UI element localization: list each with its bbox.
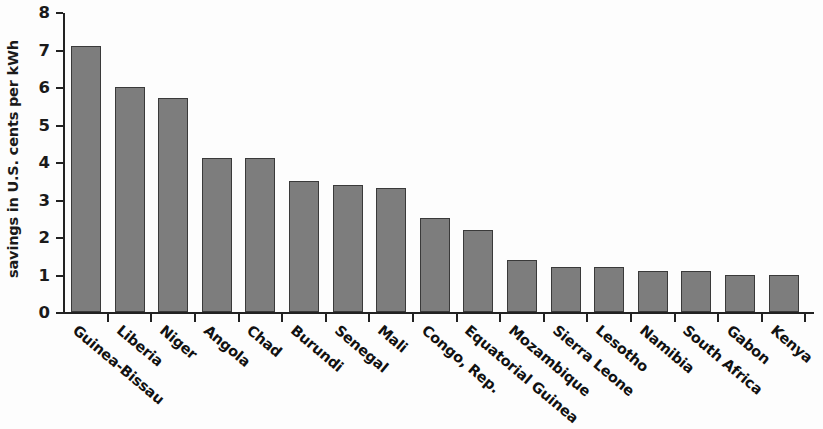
x-axis-tick xyxy=(325,314,327,322)
x-axis-tick xyxy=(107,314,109,322)
bar xyxy=(551,267,581,312)
y-axis-tick: 4 xyxy=(56,162,63,164)
y-axis-tick: 8 xyxy=(56,12,63,14)
y-axis-tick: 0 xyxy=(56,312,63,314)
bar xyxy=(769,275,799,313)
x-axis-tick xyxy=(412,314,414,322)
chart-page: savings in U.S. cents per kWh 012345678 … xyxy=(0,0,823,429)
x-axis-tick xyxy=(543,314,545,322)
x-axis-label: Kenya xyxy=(767,322,815,366)
y-axis-tick: 2 xyxy=(56,237,63,239)
bar xyxy=(507,260,537,313)
bar xyxy=(333,185,363,313)
bar xyxy=(376,188,406,312)
bar xyxy=(725,275,755,313)
x-axis-line xyxy=(63,312,814,314)
x-axis-labels: Guinea-BissauLiberiaNigerAngolaChadBurun… xyxy=(63,322,823,429)
bar xyxy=(71,46,101,312)
y-axis-tick-label: 7 xyxy=(39,42,50,59)
x-axis-tick xyxy=(150,314,152,322)
bar xyxy=(245,158,275,312)
y-axis-tick-label: 5 xyxy=(39,117,50,134)
x-axis-tick xyxy=(804,314,806,322)
y-axis-tick-label: 8 xyxy=(39,5,50,22)
x-axis-tick xyxy=(238,314,240,322)
bar xyxy=(638,271,668,312)
x-axis-tick xyxy=(674,314,676,322)
y-axis-line xyxy=(63,13,65,314)
bar xyxy=(158,98,188,312)
y-axis-tick: 6 xyxy=(56,87,63,89)
y-axis-tick: 1 xyxy=(56,275,63,277)
bar xyxy=(202,158,232,312)
y-axis-tick-label: 3 xyxy=(39,192,50,209)
x-axis-tick xyxy=(717,314,719,322)
plot-area: 012345678 xyxy=(63,13,808,313)
bar xyxy=(594,267,624,312)
bar xyxy=(115,87,145,312)
y-axis-title-text: savings in U.S. cents per kWh xyxy=(5,40,21,278)
y-axis-tick: 7 xyxy=(56,50,63,52)
bar xyxy=(463,230,493,313)
y-axis-tick: 5 xyxy=(56,125,63,127)
x-axis-label: Angola xyxy=(201,322,254,370)
y-axis-title: savings in U.S. cents per kWh xyxy=(0,0,26,318)
x-axis-tick xyxy=(630,314,632,322)
bar xyxy=(420,218,450,312)
x-axis-tick xyxy=(456,314,458,322)
y-axis-tick-label: 4 xyxy=(39,155,50,172)
x-axis-tick xyxy=(368,314,370,322)
x-axis-tick xyxy=(194,314,196,322)
bar xyxy=(289,181,319,312)
y-axis-tick-label: 0 xyxy=(39,305,50,322)
x-axis-tick xyxy=(281,314,283,322)
x-axis-label: Congo, Rep. xyxy=(419,322,503,396)
y-axis-tick-label: 6 xyxy=(39,80,50,97)
y-axis-tick: 3 xyxy=(56,200,63,202)
x-axis-tick xyxy=(586,314,588,322)
x-axis-tick xyxy=(499,314,501,322)
bar xyxy=(681,271,711,312)
y-axis-tick-label: 2 xyxy=(39,230,50,247)
x-axis-tick xyxy=(761,314,763,322)
x-axis-label: Mali xyxy=(375,322,411,356)
y-axis-tick-label: 1 xyxy=(39,267,50,284)
